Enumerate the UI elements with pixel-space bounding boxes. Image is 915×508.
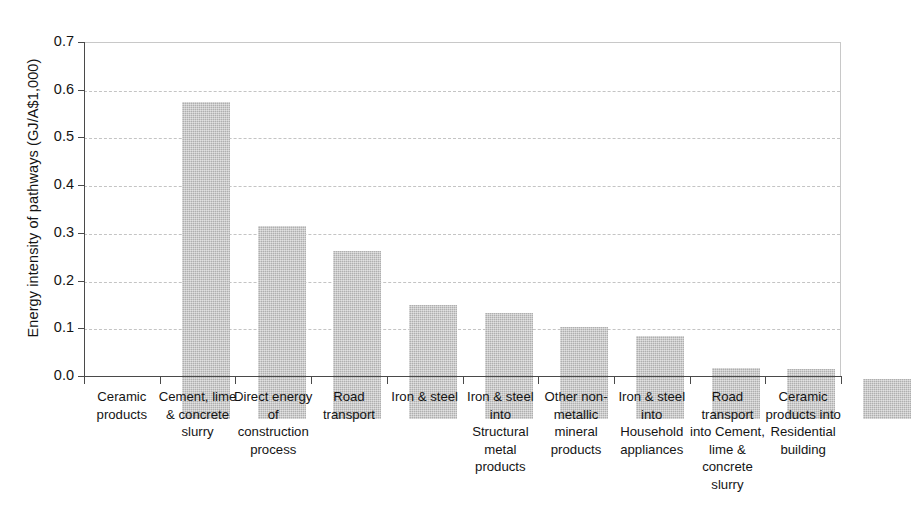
y-axis-tick-label: 0.0 (34, 367, 74, 383)
bar (182, 102, 230, 419)
x-axis-tick (614, 376, 615, 384)
x-axis-tick (235, 376, 236, 384)
x-axis-tick (387, 376, 388, 384)
y-axis-title: Energy intensity of pathways (GJ/A$1,000… (25, 28, 41, 368)
x-axis-tick (841, 376, 842, 384)
y-axis-line (84, 42, 85, 377)
x-axis-label-line: products (454, 458, 548, 476)
x-axis-label-line: transport (302, 406, 396, 424)
x-axis-label: Ceramicproducts intoResidentialbuilding (756, 388, 850, 458)
y-axis-tick-label: 0.2 (34, 272, 74, 288)
y-axis-tick (78, 90, 85, 91)
bars-group (168, 85, 915, 419)
y-axis-tick-label: 0.3 (34, 224, 74, 240)
y-axis-tick-label: 0.1 (34, 319, 74, 335)
x-axis-tick (538, 376, 539, 384)
y-axis-tick (78, 328, 85, 329)
x-axis-label-line: concrete (681, 458, 775, 476)
x-axis-label-line: building (756, 441, 850, 459)
y-axis-tick (78, 281, 85, 282)
plot-area (84, 42, 841, 376)
y-axis-tick-label: 0.6 (34, 81, 74, 97)
y-axis-tick (78, 137, 85, 138)
x-axis-labels: CeramicproductsCement, lime& concreteslu… (84, 388, 841, 503)
x-axis-tick (690, 376, 691, 384)
x-axis-label-line: slurry (681, 476, 775, 494)
x-axis-label-line: products into (756, 406, 850, 424)
y-axis-tick (78, 42, 85, 43)
x-axis-tick (311, 376, 312, 384)
bar (863, 379, 911, 419)
x-axis-label-line: Ceramic (756, 388, 850, 406)
y-axis-tick (78, 233, 85, 234)
y-axis-tick-label: 0.5 (34, 128, 74, 144)
x-axis-label-line: process (226, 441, 320, 459)
y-axis-tick-label: 0.7 (34, 33, 74, 49)
x-axis-tick (160, 376, 161, 384)
x-axis-label-line: construction (226, 423, 320, 441)
y-axis-tick-label: 0.4 (34, 176, 74, 192)
x-axis-tick (765, 376, 766, 384)
x-axis-label-line: Residential (756, 423, 850, 441)
x-axis-tick (463, 376, 464, 384)
x-axis-tick (84, 376, 85, 384)
y-axis-tick (78, 185, 85, 186)
